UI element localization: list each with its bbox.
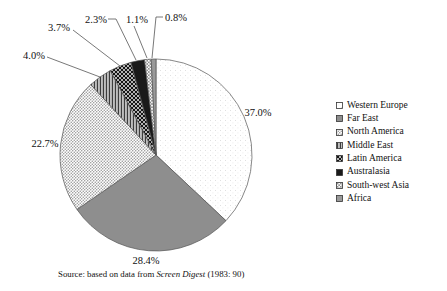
legend-label: Africa [347, 194, 371, 204]
legend-item-western-europe: Western Europe [336, 99, 409, 112]
legend-label: Far East [347, 114, 378, 124]
legend-item-africa: Africa [336, 192, 409, 205]
legend-swatch [336, 195, 343, 202]
slice-percent-label: 4.0% [23, 50, 45, 61]
legend-label: North America [347, 127, 404, 137]
source-prefix: Source: based on data from [58, 269, 156, 279]
legend-item-middle-east: Middle East [336, 139, 409, 152]
legend-item-north-america: North America [336, 126, 409, 139]
slice-percent-label: 2.3% [85, 14, 107, 25]
legend-swatch [336, 169, 343, 176]
leader-line [134, 26, 147, 58]
legend-swatch [336, 129, 343, 136]
slice-percent-label: 28.4% [132, 255, 159, 266]
slice-percent-label: 3.7% [48, 22, 70, 33]
leader-line [108, 19, 136, 60]
legend-label: Middle East [347, 141, 393, 151]
leader-line [152, 17, 163, 58]
leader-line [47, 57, 100, 77]
legend-swatch [336, 155, 343, 162]
source-title-italic: Screen Digest [156, 269, 205, 279]
slice-percent-label: 22.7% [31, 138, 58, 149]
slice-percent-label: 1.1% [126, 14, 148, 25]
legend-item-far-east: Far East [336, 112, 409, 125]
source-note: Source: based on data from Screen Digest… [58, 269, 244, 279]
legend: Western EuropeFar EastNorth AmericaMiddl… [336, 99, 409, 205]
pie-chart: 37.0%28.4%22.7%4.0%3.7%2.3%1.1%0.8% [0, 0, 310, 268]
legend-label: Western Europe [347, 101, 408, 111]
legend-item-latin-america: Latin America [336, 152, 409, 165]
legend-swatch [336, 142, 343, 149]
legend-item-south-west-asia: South-west Asia [336, 179, 409, 192]
pie-chart-figure: 37.0%28.4%22.7%4.0%3.7%2.3%1.1%0.8% West… [0, 0, 447, 291]
slice-percent-label: 0.8% [165, 12, 187, 23]
legend-item-australasia: Australasia [336, 165, 409, 178]
legend-swatch [336, 182, 343, 189]
legend-label: Latin America [347, 154, 402, 164]
legend-label: Australasia [347, 167, 390, 177]
leader-line [73, 30, 120, 66]
legend-swatch [336, 115, 343, 122]
pie-slices [60, 59, 252, 251]
legend-label: South-west Asia [347, 181, 409, 191]
source-suffix: (1983: 90) [205, 269, 244, 279]
legend-swatch [336, 102, 343, 109]
slice-percent-label: 37.0% [244, 107, 271, 118]
